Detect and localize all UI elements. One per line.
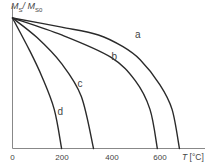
x-tick-0: 0 — [10, 153, 14, 162]
x-tick-400: 400 — [105, 153, 118, 162]
curve-label-b: b — [112, 50, 118, 61]
x-axis-label: T [°C] — [182, 152, 204, 162]
chart-plot-area — [0, 0, 211, 168]
curve-label-d: d — [58, 105, 64, 116]
curve-label-a: a — [135, 28, 141, 39]
y-axis-label: MS/ MS0 — [11, 1, 42, 13]
curve-label-c: c — [78, 78, 83, 89]
x-tick-600: 600 — [153, 153, 166, 162]
x-tick-200: 200 — [55, 153, 68, 162]
